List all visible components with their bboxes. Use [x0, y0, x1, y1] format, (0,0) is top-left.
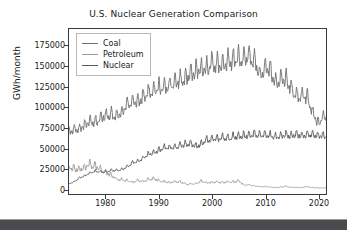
chart-title: U.S. Nuclear Generation Comparison — [0, 9, 347, 19]
y-tick-label: 100000 — [5, 103, 65, 112]
chart-legend: CoalPetroleumNuclear — [76, 33, 151, 76]
legend-item: Coal — [82, 38, 144, 49]
y-tick-label: 0 — [5, 186, 65, 195]
legend-item: Petroleum — [82, 49, 144, 60]
x-tick-label: 2020 — [294, 199, 344, 208]
x-tick-label: 2000 — [187, 199, 237, 208]
legend-swatch-icon — [82, 54, 98, 55]
x-tick-label: 1990 — [134, 199, 184, 208]
legend-swatch-icon — [82, 43, 98, 44]
y-tick-label: 25000 — [5, 165, 65, 174]
series-line-petroleum — [69, 159, 326, 188]
bottom-bar — [0, 219, 347, 230]
legend-label: Nuclear — [103, 60, 134, 71]
y-tick-mark — [64, 87, 68, 88]
legend-item: Nuclear — [82, 60, 144, 71]
y-tick-label: 50000 — [5, 144, 65, 153]
x-tick-mark — [266, 195, 267, 199]
y-tick-label: 75000 — [5, 124, 65, 133]
y-tick-mark — [64, 128, 68, 129]
x-tick-mark — [212, 195, 213, 199]
y-tick-mark — [64, 190, 68, 191]
y-tick-mark — [64, 45, 68, 46]
x-tick-mark — [105, 195, 106, 199]
x-tick-label: 1980 — [80, 199, 130, 208]
legend-label: Coal — [103, 38, 121, 49]
legend-swatch-icon — [82, 65, 98, 66]
legend-label: Petroleum — [103, 49, 144, 60]
x-tick-mark — [159, 195, 160, 199]
y-tick-mark — [64, 149, 68, 150]
y-tick-mark — [64, 107, 68, 108]
y-tick-label: 150000 — [5, 62, 65, 71]
x-tick-mark — [319, 195, 320, 199]
series-line-nuclear — [69, 130, 326, 184]
y-tick-label: 125000 — [5, 82, 65, 91]
x-tick-label: 2010 — [241, 199, 291, 208]
chart-figure: U.S. Nuclear Generation Comparison GWh/m… — [0, 0, 347, 218]
y-tick-mark — [64, 66, 68, 67]
y-tick-label: 175000 — [5, 41, 65, 50]
y-tick-mark — [64, 169, 68, 170]
